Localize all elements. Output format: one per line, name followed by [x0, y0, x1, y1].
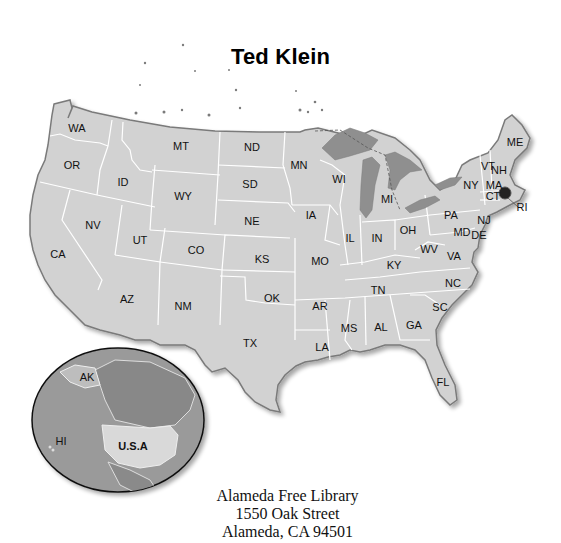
state-label-nc: NC	[445, 277, 461, 289]
state-label-wy: WY	[174, 190, 192, 202]
address-block: Alameda Free Library 1550 Oak Street Ala…	[0, 487, 561, 541]
state-label-me: ME	[507, 136, 524, 148]
state-label-pa: PA	[444, 209, 459, 221]
state-label-nv: NV	[85, 219, 101, 231]
inset-globe	[32, 348, 204, 495]
inset-label-usa: U.S.A	[118, 440, 147, 452]
state-label-mt: MT	[173, 140, 189, 152]
state-label-wv: WV	[420, 243, 438, 255]
state-label-sc: SC	[432, 301, 447, 313]
state-label-ut: UT	[133, 234, 148, 246]
address-line-1: Alameda Free Library	[14, 487, 561, 505]
state-label-va: VA	[447, 250, 462, 262]
state-label-mi: MI	[381, 193, 393, 205]
inset-label-hi: HI	[56, 435, 67, 447]
state-label-de: DE	[471, 229, 486, 241]
us-map: WAORIDMTWYNDSDNEMNWIMIIAILINOHPANYMEVTNH…	[0, 0, 561, 543]
state-label-ia: IA	[306, 209, 317, 221]
state-label-nh: NH	[491, 164, 507, 176]
address-line-2: 1550 Oak Street	[14, 505, 561, 523]
state-label-mn: MN	[290, 159, 307, 171]
state-label-ar: AR	[312, 300, 327, 312]
state-label-ky: KY	[387, 259, 402, 271]
state-label-ms: MS	[341, 322, 358, 334]
state-label-ny: NY	[463, 179, 479, 191]
state-label-nm: NM	[174, 300, 191, 312]
state-label-ri: RI	[517, 201, 528, 213]
state-label-tx: TX	[243, 337, 258, 349]
state-label-wi: WI	[332, 173, 345, 185]
state-label-ks: KS	[255, 253, 270, 265]
state-label-oh: OH	[400, 224, 417, 236]
state-label-ne: NE	[244, 215, 259, 227]
state-label-wa: WA	[68, 122, 86, 134]
state-label-md: MD	[453, 226, 470, 238]
state-label-ca: CA	[50, 248, 66, 260]
state-label-nd: ND	[244, 141, 260, 153]
state-label-al: AL	[374, 321, 387, 333]
state-label-ok: OK	[264, 292, 281, 304]
speckles	[135, 44, 324, 117]
state-label-fl: FL	[437, 376, 450, 388]
state-label-mo: MO	[311, 255, 329, 267]
state-label-tn: TN	[371, 284, 386, 296]
state-label-ga: GA	[406, 319, 423, 331]
state-label-ct: CT	[486, 190, 501, 202]
state-label-id: ID	[118, 176, 129, 188]
state-label-nj: NJ	[477, 214, 490, 226]
inset-label-ak: AK	[80, 371, 95, 383]
state-label-in: IN	[372, 232, 383, 244]
state-label-az: AZ	[120, 293, 134, 305]
state-label-sd: SD	[242, 178, 257, 190]
state-label-co: CO	[188, 244, 205, 256]
state-label-or: OR	[64, 159, 81, 171]
address-line-3: Alameda, CA 94501	[14, 523, 561, 541]
state-label-la: LA	[315, 341, 329, 353]
state-label-il: IL	[345, 232, 354, 244]
